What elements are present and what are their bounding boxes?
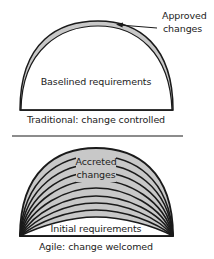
approved-changes-label-line1: Approved [162, 10, 207, 22]
traditional-caption: Traditional: change controlled [27, 114, 165, 126]
traditional-diagram [20, 21, 173, 110]
baselined-requirements-region [21, 26, 172, 110]
requirements-change-diagram [0, 0, 214, 259]
agile-caption: Agile: change welcomed [39, 241, 153, 253]
approved-changes-label-line2: changes [163, 23, 202, 35]
baselined-requirements-label: Baselined requirements [41, 76, 152, 88]
accreted-changes-label-line1: Accreted [75, 156, 116, 168]
initial-requirements-label: Initial requirements [51, 223, 142, 235]
accreted-changes-label-line2: changes [76, 169, 115, 181]
